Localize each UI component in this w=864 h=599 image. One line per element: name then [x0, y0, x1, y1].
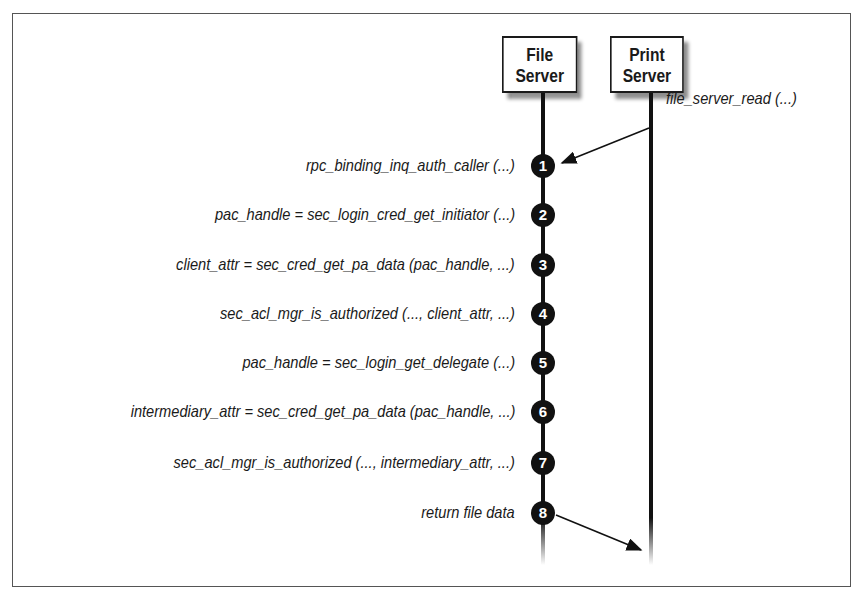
step-8-marker: 8	[531, 501, 555, 525]
step-6-label: intermediary_attr = sec_cred_get_pa_data…	[130, 401, 515, 423]
step-5-label: pac_handle = sec_login_get_delegate (...…	[242, 352, 515, 374]
step-7-marker: 7	[531, 451, 555, 475]
incoming-message-label: file_server_read (...)	[666, 88, 797, 110]
step-1-marker: 1	[531, 154, 555, 178]
step-1-label: rpc_binding_inq_auth_caller (...)	[306, 155, 515, 177]
step-2-marker: 2	[531, 203, 555, 227]
step-5-marker: 5	[531, 351, 555, 375]
step-6-marker: 6	[531, 400, 555, 424]
step-3-label: client_attr = sec_cred_get_pa_data (pac_…	[176, 254, 515, 276]
incoming-arrow	[562, 128, 649, 163]
step-8-label: return file data	[422, 502, 515, 524]
step-7-label: sec_acl_mgr_is_authorized (..., intermed…	[174, 452, 515, 474]
step-2-label: pac_handle = sec_login_cred_get_initiato…	[215, 204, 515, 226]
step-4-label: sec_acl_mgr_is_authorized (..., client_a…	[220, 303, 515, 325]
step-4-marker: 4	[531, 302, 555, 326]
outgoing-arrow	[556, 515, 641, 550]
step-3-marker: 3	[531, 253, 555, 277]
